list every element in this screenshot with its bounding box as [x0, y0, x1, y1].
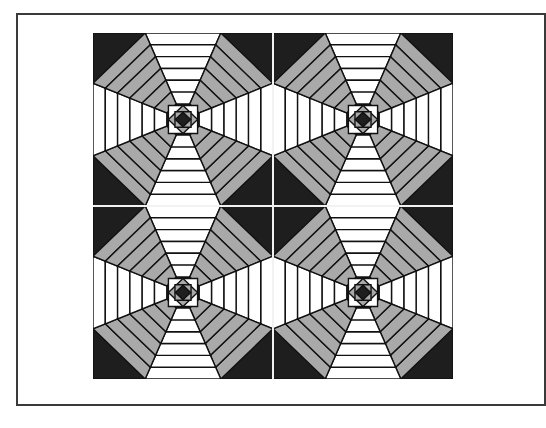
quilt-block [273, 206, 453, 379]
quilt-block [273, 33, 453, 206]
quilt-illustration [93, 33, 453, 379]
quilt-block [93, 206, 273, 379]
quilt-block [93, 33, 273, 206]
quilt-pattern [93, 33, 453, 379]
